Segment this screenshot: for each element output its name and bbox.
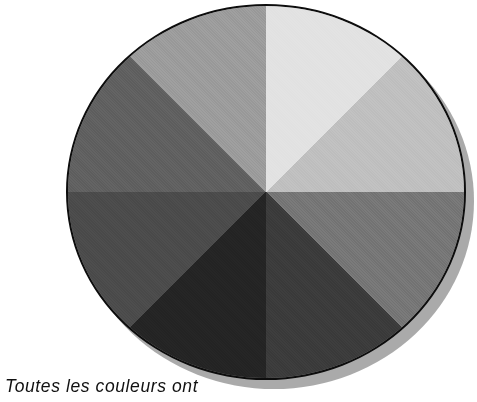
figure-caption: Toutes les couleurs ont	[5, 376, 198, 397]
color-wheel-figure: Toutes les couleurs ont	[0, 0, 477, 402]
color-wheel-sectors	[66, 4, 466, 380]
color-wheel-disc	[66, 4, 466, 380]
